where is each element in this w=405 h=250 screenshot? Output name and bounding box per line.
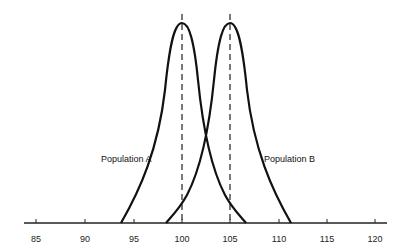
label-population-b: Population B xyxy=(264,154,315,164)
distribution-chart: Population A Population B 85 90 95 100 1… xyxy=(0,0,405,250)
x-tick-label: 105 xyxy=(222,234,237,244)
x-tick-label: 100 xyxy=(174,234,189,244)
x-tick-label: 95 xyxy=(129,234,139,244)
x-tick-label: 115 xyxy=(320,234,334,244)
x-tick-label: 85 xyxy=(31,234,41,244)
chart-canvas xyxy=(0,0,405,250)
label-population-a: Population A xyxy=(101,154,152,164)
x-tick-label: 110 xyxy=(272,234,286,244)
x-tick-label: 90 xyxy=(80,234,90,244)
curve-population-a xyxy=(121,23,246,223)
x-tick-label: 120 xyxy=(367,234,382,244)
curve-population-b xyxy=(166,23,291,223)
